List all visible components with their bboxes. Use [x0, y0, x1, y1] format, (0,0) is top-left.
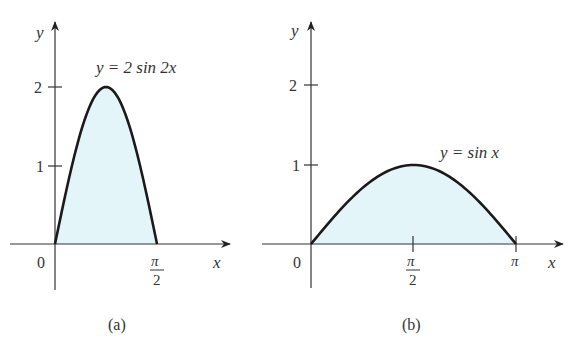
- svg-text:2: 2: [153, 272, 161, 288]
- x-tick-label-pi-over-2-b: π 2: [406, 253, 420, 288]
- shaded-region-b: [311, 165, 516, 244]
- origin-label-b: 0: [293, 254, 301, 271]
- shaded-region-a: [55, 87, 157, 244]
- origin-label-a: 0: [37, 254, 45, 271]
- x-axis-label-a: x: [212, 253, 221, 272]
- panel-a: y 2 1 0 x π 2 y = 2 sin 2x (a): [10, 22, 230, 334]
- y-tick-label-2-b: 2: [289, 77, 297, 94]
- caption-a: (a): [108, 316, 126, 334]
- y-tick-label-1-a: 1: [36, 158, 44, 175]
- caption-b: (b): [402, 316, 421, 334]
- svg-text:2: 2: [409, 272, 417, 288]
- y-tick-label-1-b: 1: [292, 157, 300, 174]
- panel-b: y 2 1 0 x π 2 π y = sin x (b): [262, 21, 563, 334]
- x-tick-label-pi-b: π: [511, 253, 519, 269]
- y-tick-label-2-a: 2: [34, 79, 42, 96]
- svg-text:π: π: [407, 253, 415, 269]
- y-axis-label-a: y: [34, 23, 44, 42]
- x-axis-label-b: x: [547, 253, 556, 272]
- figure: y 2 1 0 x π 2 y = 2 sin 2x (a) y 2 1 0 x: [0, 0, 569, 346]
- equation-label-b: y = sin x: [438, 143, 500, 162]
- svg-text:π: π: [151, 253, 159, 269]
- y-axis-label-b: y: [289, 21, 299, 40]
- equation-label-a: y = 2 sin 2x: [94, 58, 177, 77]
- x-tick-label-pi-over-2-a: π 2: [150, 253, 164, 288]
